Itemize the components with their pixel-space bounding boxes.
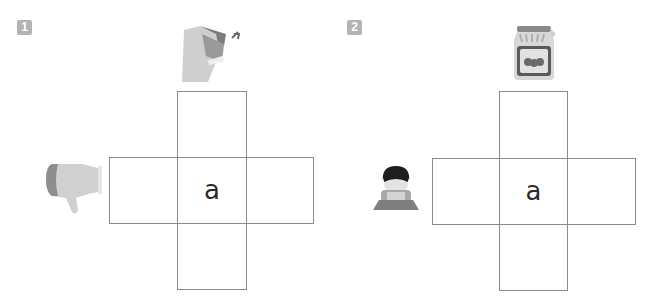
puzzle-1-cell-center: a — [177, 157, 247, 224]
puzzle-2-cell-bottom[interactable] — [499, 224, 568, 291]
center-letter: a — [526, 178, 542, 204]
puzzle-number-badge: 2 — [347, 20, 362, 35]
puzzle-1-cell-left[interactable] — [109, 157, 178, 224]
thumbs-down-icon — [42, 158, 104, 216]
jam-jar-icon — [512, 22, 556, 82]
puzzle-1-cell-bottom[interactable] — [177, 223, 247, 290]
puzzle-number-badge: 1 — [17, 20, 32, 35]
puzzle-1-cell-top[interactable] — [177, 91, 247, 158]
center-letter: a — [204, 177, 220, 203]
puzzle-1-cell-right[interactable] — [246, 157, 314, 224]
puzzle-2-cell-left[interactable] — [432, 158, 500, 225]
sad-boy-icon — [371, 162, 421, 214]
puzzle-2-cell-right[interactable] — [567, 158, 636, 225]
stapler-icon — [178, 22, 246, 86]
puzzle-2-cell-center: a — [499, 158, 568, 225]
puzzle-2-cell-top[interactable] — [499, 91, 568, 159]
